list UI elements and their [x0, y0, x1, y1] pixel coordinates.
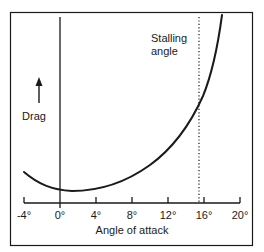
- tick-label: 16°: [196, 209, 213, 221]
- x-tick-labels: -4° 0° 4° 8° 12° 16° 20°: [17, 209, 248, 221]
- up-arrow-head-icon: [36, 77, 43, 86]
- stalling-angle-label-line1: Stalling: [151, 32, 187, 44]
- x-axis-label: Angle of attack: [96, 224, 169, 236]
- drag-chart: -4° 0° 4° 8° 12° 16° 20° Angle of attack…: [0, 0, 264, 252]
- tick-label: -4°: [17, 209, 31, 221]
- tick-label: 12°: [160, 209, 177, 221]
- tick-label: 4°: [91, 209, 102, 221]
- x-axis-ticks: [24, 197, 240, 203]
- tick-label: 0°: [55, 209, 66, 221]
- drag-curve: [24, 15, 222, 191]
- tick-label: 8°: [127, 209, 138, 221]
- y-axis-label: Drag: [22, 110, 46, 122]
- tick-label: 20°: [232, 209, 249, 221]
- stalling-angle-label-line2: angle: [151, 45, 178, 57]
